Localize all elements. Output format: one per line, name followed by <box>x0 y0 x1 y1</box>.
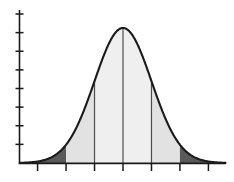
distribution-chart <box>0 0 234 182</box>
normal-distribution-figure: Normal distribution curve with shaded st… <box>0 0 234 182</box>
